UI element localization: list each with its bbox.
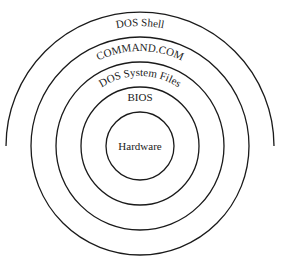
ring-dos-shell [6, 12, 274, 146]
label-dos-system-files: DOS System Files [96, 66, 183, 89]
label-bios: BIOS [127, 91, 152, 103]
label-command-com: COMMAND.COM [94, 41, 186, 63]
dos-layers-diagram: DOS Shell COMMAND.COM DOS System Files B… [0, 0, 284, 267]
label-dos-shell: DOS Shell [115, 16, 166, 30]
label-hardware: Hardware [118, 140, 161, 152]
